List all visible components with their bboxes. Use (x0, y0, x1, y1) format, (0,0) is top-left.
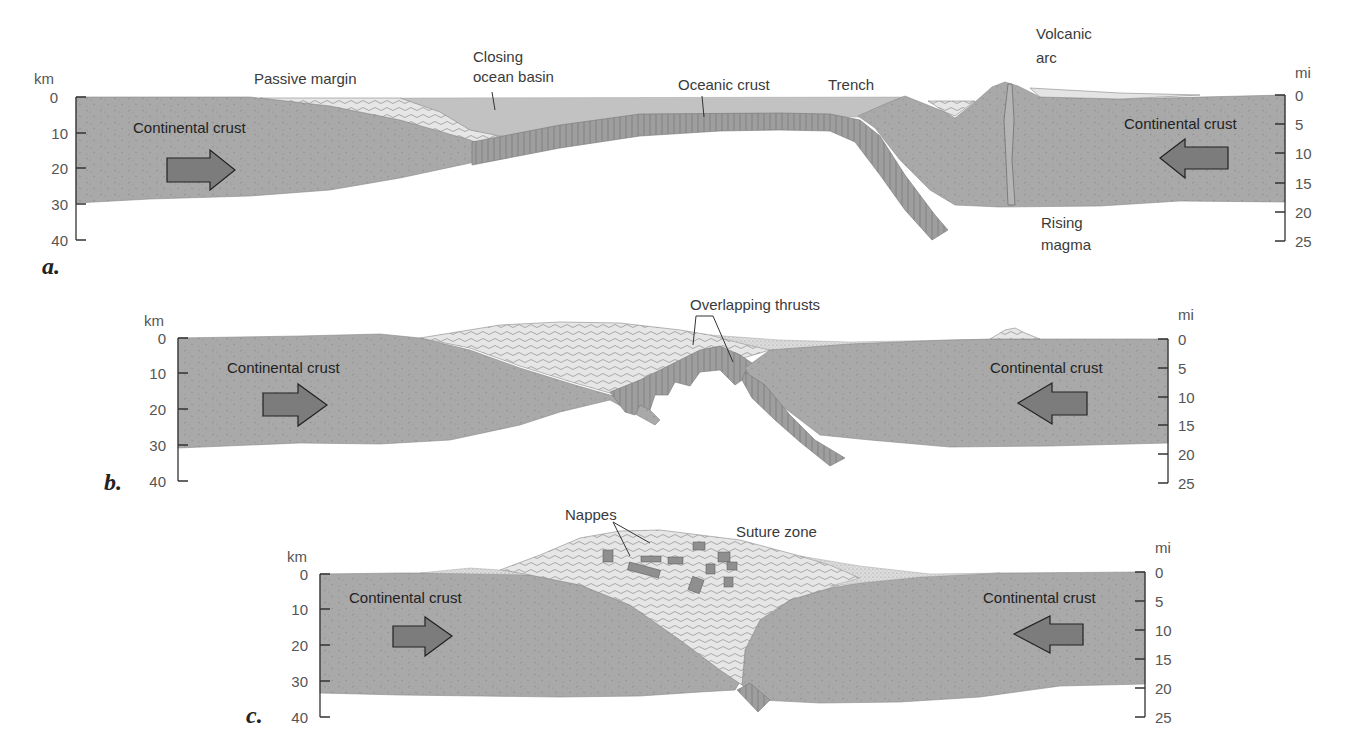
mi-tick: 20 (1155, 680, 1172, 697)
km-tick: 0 (50, 89, 58, 106)
km-tick: 0 (300, 566, 308, 583)
km-tick: 20 (291, 637, 308, 654)
continental-crust-label-left: Continental crust (133, 119, 246, 136)
oceanic-crust-label: Oceanic crust (678, 76, 771, 93)
km-tick: 10 (291, 601, 308, 618)
mi-tick: 5 (1295, 116, 1303, 133)
mi-tick: 0 (1178, 331, 1186, 348)
nappes-label: Nappes (565, 506, 617, 523)
km-tick: 20 (51, 160, 68, 177)
km-tick: 0 (158, 330, 166, 347)
km-tick: 40 (149, 473, 166, 490)
overlapping-thrusts-label: Overlapping thrusts (690, 296, 820, 313)
mi-tick: 10 (1178, 389, 1195, 406)
panel-letter-c: c. (246, 702, 263, 728)
mi-tick: 25 (1155, 709, 1172, 726)
continental-crust-label-left: Continental crust (227, 359, 340, 376)
km-tick: 30 (51, 196, 68, 213)
mi-tick: 25 (1178, 475, 1195, 492)
volcanic-arc-label-line1: Volcanic (1036, 25, 1092, 42)
mi-tick: 10 (1155, 622, 1172, 639)
suture-zone-label: Suture zone (736, 523, 817, 540)
continental-crust-right (858, 82, 1285, 207)
oceanic-crust (472, 113, 948, 240)
panel-b: km 0 10 20 30 40 mi 0 5 10 15 20 25 Cont… (104, 296, 1195, 495)
closing-ocean-basin-label-line1: Closing (473, 48, 523, 65)
closing-ocean-basin-label-line2: ocean basin (473, 68, 554, 85)
mi-tick: 0 (1155, 564, 1163, 581)
continental-crust-right (745, 339, 1168, 447)
km-tick: 20 (149, 401, 166, 418)
km-tick: 40 (51, 232, 68, 249)
volcanic-arc-label-line2: arc (1036, 49, 1057, 66)
mi-tick: 25 (1295, 233, 1312, 250)
mi-tick: 0 (1295, 87, 1303, 104)
mi-unit-label: mi (1155, 539, 1171, 556)
continental-crust-label-right: Continental crust (1124, 115, 1237, 132)
small-volcano (990, 328, 1040, 339)
mi-tick: 15 (1178, 417, 1195, 434)
mi-unit-label: mi (1295, 64, 1311, 81)
mi-unit-label: mi (1178, 306, 1194, 323)
mi-tick: 10 (1295, 145, 1312, 162)
passive-margin-label: Passive margin (254, 70, 357, 87)
mi-tick: 15 (1295, 175, 1312, 192)
mi-tick: 15 (1155, 651, 1172, 668)
km-tick: 10 (51, 125, 68, 142)
rising-magma-label-line2: magma (1041, 236, 1092, 253)
continental-crust-label-right: Continental crust (990, 359, 1103, 376)
rising-magma-label-line1: Rising (1041, 214, 1083, 231)
mi-tick: 5 (1155, 593, 1163, 610)
geology-figure: km 0 10 20 30 40 mi 0 5 10 15 20 25 Cont… (0, 0, 1362, 755)
panel-letter-a: a. (42, 253, 60, 279)
km-tick: 30 (149, 437, 166, 454)
mi-tick: 5 (1178, 360, 1186, 377)
panel-a: km 0 10 20 30 40 mi 0 5 10 15 20 25 Cont… (34, 25, 1312, 279)
back-arc-sediments (1030, 88, 1200, 99)
mi-tick: 20 (1178, 446, 1195, 463)
km-unit-label: km (287, 548, 307, 565)
panel-letter-b: b. (104, 469, 122, 495)
mi-tick: 20 (1295, 204, 1312, 221)
km-unit-label: km (144, 312, 164, 329)
km-tick: 30 (291, 673, 308, 690)
km-tick: 40 (291, 709, 308, 726)
continental-crust-label-left: Continental crust (349, 589, 462, 606)
panel-c: km 0 10 20 30 40 mi 0 5 10 15 20 25 Cont… (246, 506, 1172, 728)
trench-label: Trench (828, 76, 874, 93)
km-tick: 10 (149, 365, 166, 382)
km-unit-label: km (34, 70, 54, 87)
continental-crust-label-right: Continental crust (983, 589, 1096, 606)
